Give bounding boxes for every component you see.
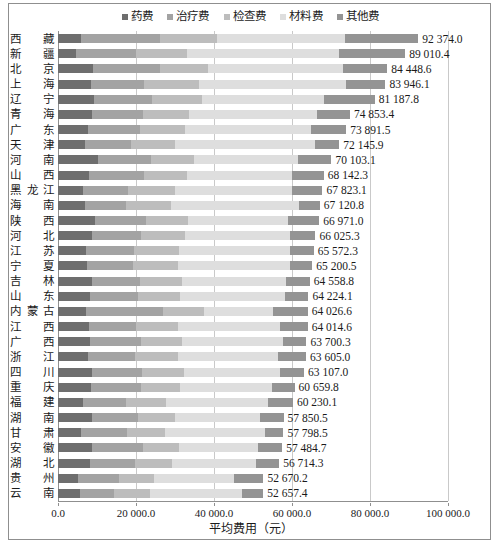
legend-item-3[interactable]: 检查费 <box>224 10 267 23</box>
bar-segment-5 <box>288 216 319 225</box>
bar-row[interactable]: 浙江63 605.0 <box>58 349 448 364</box>
bar-segment-1 <box>58 140 85 149</box>
stacked-bar[interactable] <box>58 216 319 225</box>
bar-segment-1 <box>58 443 92 452</box>
legend-item-5[interactable]: 其他费 <box>337 10 380 23</box>
stacked-bar[interactable] <box>58 110 350 119</box>
stacked-bar-chart: 药费治疗费检查费材料费其他费 西藏92 374.0新疆89 010.4北京84 … <box>0 0 500 555</box>
bar-segment-4 <box>179 443 258 452</box>
bar-segment-4 <box>175 140 315 149</box>
stacked-bar[interactable] <box>58 49 405 58</box>
bar-row[interactable]: 新疆89 010.4 <box>58 46 448 61</box>
legend-item-2[interactable]: 治疗费 <box>167 10 210 23</box>
bar-row[interactable]: 海南67 120.8 <box>58 198 448 213</box>
stacked-bar[interactable] <box>58 201 320 210</box>
stacked-bar[interactable] <box>58 171 324 180</box>
bar-segment-4 <box>185 125 311 134</box>
bar-row[interactable]: 青海74 853.4 <box>58 107 448 122</box>
bar-row[interactable]: 江西64 014.6 <box>58 319 448 334</box>
bar-row[interactable]: 吉林64 558.8 <box>58 274 448 289</box>
stacked-bar[interactable] <box>58 261 312 270</box>
bar-row[interactable]: 山东64 224.1 <box>58 289 448 304</box>
stacked-bar[interactable] <box>58 428 283 437</box>
stacked-bar[interactable] <box>58 383 295 392</box>
stacked-bar[interactable] <box>58 398 293 407</box>
bar-row[interactable]: 西藏92 374.0 <box>58 31 448 46</box>
bar-row[interactable]: 安徽57 484.7 <box>58 440 448 455</box>
stacked-bar[interactable] <box>58 64 387 73</box>
bar-segment-3 <box>141 383 180 392</box>
bar-segment-2 <box>92 231 141 240</box>
stacked-bar[interactable] <box>58 352 306 361</box>
value-label: 63 700.3 <box>306 336 350 348</box>
bar-row[interactable]: 北京84 448.6 <box>58 61 448 76</box>
bar-segment-1 <box>58 261 87 270</box>
bar-segment-2 <box>92 368 142 377</box>
bar-segment-4 <box>187 171 292 180</box>
legend-swatch-icon <box>337 14 343 20</box>
bar-row[interactable]: 河南70 103.1 <box>58 152 448 167</box>
bar-row[interactable]: 辽宁81 187.8 <box>58 92 448 107</box>
chart-frame: 药费治疗费检查费材料费其他费 西藏92 374.0新疆89 010.4北京84 … <box>8 3 491 540</box>
bar-row[interactable]: 甘肃57 798.5 <box>58 425 448 440</box>
bar-segment-2 <box>80 489 114 498</box>
bar-segment-1 <box>58 428 81 437</box>
bar-row[interactable]: 重庆60 659.8 <box>58 380 448 395</box>
stacked-bar[interactable] <box>58 459 279 468</box>
bar-row[interactable]: 福建60 230.1 <box>58 395 448 410</box>
stacked-bar[interactable] <box>58 231 315 240</box>
stacked-bar[interactable] <box>58 337 306 346</box>
stacked-bar[interactable] <box>58 186 323 195</box>
bar-row[interactable]: 贵州52 670.2 <box>58 471 448 486</box>
stacked-bar[interactable] <box>58 155 331 164</box>
stacked-bar[interactable] <box>58 292 308 301</box>
stacked-bar[interactable] <box>58 413 284 422</box>
bar-row[interactable]: 黑龙江67 823.1 <box>58 183 448 198</box>
bar-row[interactable]: 山西68 142.3 <box>58 167 448 182</box>
chart-legend: 药费治疗费检查费材料费其他费 <box>9 10 492 23</box>
stacked-bar[interactable] <box>58 368 304 377</box>
bar-segment-5 <box>242 489 264 498</box>
bar-segment-1 <box>58 34 81 43</box>
bar-row[interactable]: 内蒙古64 026.6 <box>58 304 448 319</box>
value-label: 52 657.4 <box>263 487 307 499</box>
stacked-bar[interactable] <box>58 246 314 255</box>
bar-segment-4 <box>179 246 291 255</box>
bar-row[interactable]: 广西63 700.3 <box>58 334 448 349</box>
value-label: 70 103.1 <box>331 154 375 166</box>
legend-item-1[interactable]: 药费 <box>122 10 153 23</box>
stacked-bar[interactable] <box>58 443 282 452</box>
bar-row[interactable]: 天津72 145.9 <box>58 137 448 152</box>
stacked-bar[interactable] <box>58 95 375 104</box>
bar-row[interactable]: 江苏65 572.3 <box>58 243 448 258</box>
bar-row[interactable]: 湖北56 714.3 <box>58 456 448 471</box>
stacked-bar[interactable] <box>58 277 310 286</box>
stacked-bar[interactable] <box>58 80 385 89</box>
bar-row[interactable]: 广东73 891.5 <box>58 122 448 137</box>
legend-item-4[interactable]: 材料费 <box>280 10 323 23</box>
bar-segment-5 <box>290 246 313 255</box>
stacked-bar[interactable] <box>58 307 308 316</box>
bar-row[interactable]: 河北66 025.3 <box>58 228 448 243</box>
bar-segment-5 <box>234 474 263 483</box>
bar-segment-1 <box>58 201 85 210</box>
bar-row[interactable]: 四川63 107.0 <box>58 365 448 380</box>
bar-row[interactable]: 云南52 657.4 <box>58 486 448 501</box>
stacked-bar[interactable] <box>58 489 263 498</box>
legend-label: 治疗费 <box>176 10 210 23</box>
x-tick-mark <box>58 503 59 506</box>
bar-segment-4 <box>178 322 279 331</box>
bar-row[interactable]: 湖南57 850.5 <box>58 410 448 425</box>
stacked-bar[interactable] <box>58 140 339 149</box>
category-label: 福建 <box>10 396 54 408</box>
bar-segment-3 <box>143 443 179 452</box>
value-label: 65 200.5 <box>312 260 356 272</box>
stacked-bar[interactable] <box>58 125 346 134</box>
bar-row[interactable]: 宁夏65 200.5 <box>58 258 448 273</box>
bar-segment-2 <box>92 443 143 452</box>
stacked-bar[interactable] <box>58 474 263 483</box>
bar-row[interactable]: 上海83 946.1 <box>58 76 448 91</box>
bar-row[interactable]: 陕西66 971.0 <box>58 213 448 228</box>
stacked-bar[interactable] <box>58 34 418 43</box>
stacked-bar[interactable] <box>58 322 308 331</box>
